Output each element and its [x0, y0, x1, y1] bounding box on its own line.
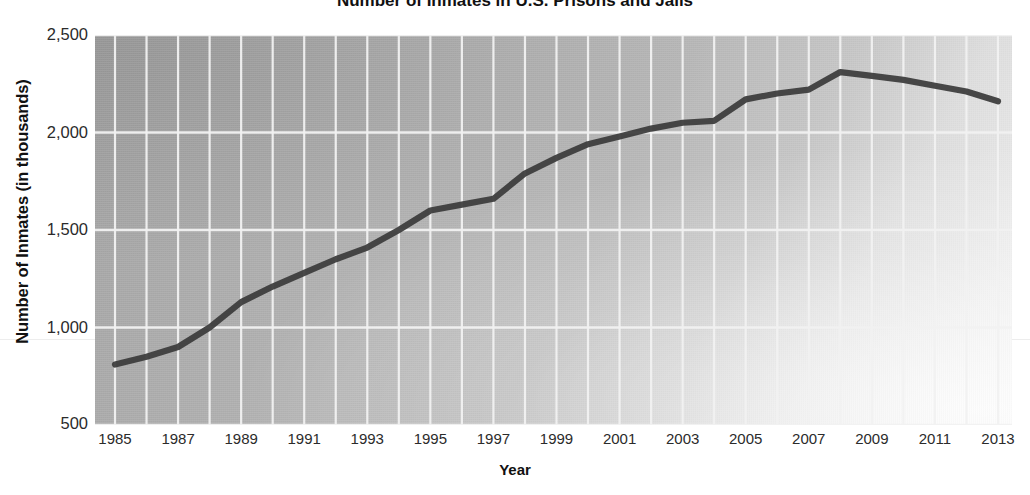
x-tick-2001: 2001 [590, 430, 650, 447]
x-tick-1993: 1993 [337, 430, 397, 447]
x-tick-1989: 1989 [211, 430, 271, 447]
x-tick-1995: 1995 [400, 430, 460, 447]
x-tick-2003: 2003 [653, 430, 713, 447]
x-tick-2011: 2011 [905, 430, 965, 447]
x-tick-1997: 1997 [463, 430, 523, 447]
x-tick-2007: 2007 [779, 430, 839, 447]
x-tick-2013: 2013 [968, 430, 1028, 447]
x-tick-2009: 2009 [842, 430, 902, 447]
x-axis-ticks: 1985198719891991199319951997199920012003… [0, 430, 1030, 454]
chart-figure: Number of Inmates in U.S. Prisons and Ja… [0, 0, 1030, 495]
x-tick-1987: 1987 [148, 430, 208, 447]
plot-area [95, 35, 1012, 425]
x-tick-2005: 2005 [716, 430, 776, 447]
x-tick-1985: 1985 [85, 430, 145, 447]
x-tick-1999: 1999 [527, 430, 587, 447]
x-axis-label: Year [0, 461, 1030, 478]
y-axis-label: Number of Inmates (in thousands) [13, 12, 32, 412]
chart-title-cropped: Number of Inmates in U.S. Prisons and Ja… [0, 0, 1030, 10]
data-line-series [95, 35, 1012, 425]
x-tick-1991: 1991 [274, 430, 334, 447]
